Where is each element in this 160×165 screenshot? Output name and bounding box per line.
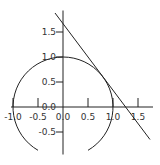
- y-tick-label: 1.5: [42, 27, 56, 37]
- x-tick-label: 0.0: [56, 112, 71, 122]
- y-tick-label: 0.5: [42, 77, 56, 87]
- y-tick-label: -0.5: [38, 127, 56, 137]
- tick-labels: -1.0-0.50.00.51.01.5-0.50.00.51.01.5: [4, 27, 145, 137]
- x-tick-label: 1.0: [106, 112, 121, 122]
- chart-area: -1.0-0.50.00.51.01.5-0.50.00.51.01.5: [0, 0, 160, 165]
- y-tick-label: 0.0: [42, 102, 57, 112]
- x-tick-label: -0.5: [29, 112, 47, 122]
- axes: [11, 11, 153, 155]
- plot-series: [13, 13, 150, 150]
- x-tick-label: 0.5: [81, 112, 95, 122]
- chart-svg: -1.0-0.50.00.51.01.5-0.50.00.51.01.5: [0, 0, 160, 165]
